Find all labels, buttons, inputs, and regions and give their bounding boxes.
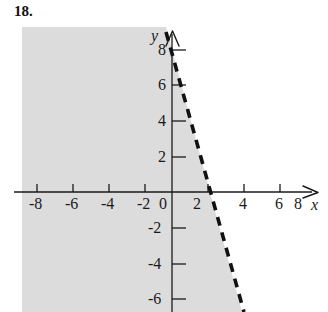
x-tick-label-2: 2: [193, 196, 201, 212]
y-tick-label-6: 6: [158, 77, 166, 93]
x-tick-label--6: -6: [65, 196, 78, 212]
y-tick-label--6: -6: [148, 291, 161, 307]
y-tick-label--4: -4: [148, 256, 161, 272]
x-axis-variable-label: x: [311, 197, 318, 213]
figure-container: 18.: [0, 0, 328, 312]
y-tick-label-4: 4: [158, 113, 166, 129]
shaded-solution-region: [22, 27, 242, 312]
x-tick-label--4: -4: [101, 196, 114, 212]
y-tick-label-2: 2: [158, 149, 166, 165]
x-tick-label-6: 6: [275, 196, 283, 212]
plot-area: -8 -6 -4 -2 0 2 4 6 8 x 8 6 4 2 -2 -4 -6…: [0, 0, 328, 312]
x-tick-label--2: -2: [137, 196, 150, 212]
y-tick-label-8: 8: [158, 42, 166, 58]
x-tick-label--8: -8: [29, 196, 42, 212]
x-tick-label-4: 4: [239, 196, 247, 212]
x-tick-label-8: 8: [294, 196, 302, 212]
origin-label: 0: [159, 196, 167, 212]
y-axis-variable-label: y: [151, 28, 158, 44]
y-tick-label--2: -2: [148, 220, 161, 236]
